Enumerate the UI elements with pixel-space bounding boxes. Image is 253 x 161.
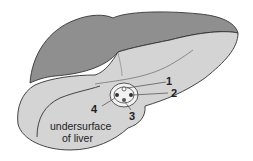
label-2: 2 <box>171 87 177 99</box>
liver-illustration: 1 2 3 4 undersurface of liver <box>0 0 253 161</box>
caption-line-2: of liver <box>62 132 93 144</box>
liver-diagram: 1 2 3 4 undersurface of liver <box>0 0 253 161</box>
structure-1 <box>122 87 126 91</box>
label-4: 4 <box>91 103 98 115</box>
label-3: 3 <box>129 110 135 122</box>
structure-3 <box>122 98 126 102</box>
structure-2 <box>129 93 133 97</box>
structure-4 <box>115 93 119 97</box>
caption-line-1: undersurface <box>50 120 111 132</box>
label-1: 1 <box>166 75 172 87</box>
